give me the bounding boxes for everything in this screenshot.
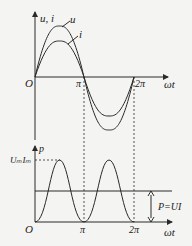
top-tick-pi: π: [76, 78, 82, 89]
power-waveform-diagram: u, i u i O π 2π ωt p UₘIₘ P=UI O π 2π ωt: [0, 0, 192, 246]
top-origin: O: [25, 77, 33, 89]
bottom-tick-pi: π: [80, 224, 86, 235]
p-label: p: [38, 143, 44, 154]
top-tick-2pi: 2π: [135, 78, 146, 89]
u-leader: [62, 21, 70, 27]
peak-label: UₘIₘ: [10, 155, 32, 165]
top-x-label: ωt: [164, 78, 176, 90]
i-label: i: [79, 28, 82, 40]
bottom-plot: [35, 146, 172, 222]
top-plot: [35, 12, 168, 140]
bottom-origin: O: [25, 223, 33, 235]
u-label: u: [70, 13, 76, 25]
average-label: P=UI: [157, 201, 182, 212]
bottom-x-label: ωt: [164, 226, 176, 238]
top-y-label: u, i: [40, 12, 54, 24]
i-curve: [35, 41, 134, 116]
i-leader: [68, 36, 78, 44]
bottom-tick-2pi: 2π: [129, 224, 140, 235]
